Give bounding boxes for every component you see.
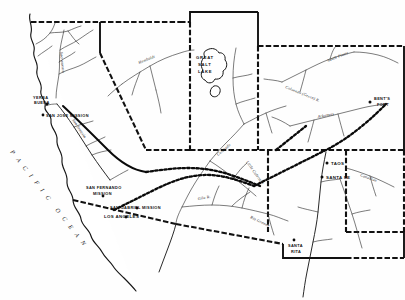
label-santa-rita-line2: RITA [291, 249, 301, 254]
label-great-salt-lake-line1: GREAT [196, 55, 214, 60]
river-colorado-green [233, 48, 244, 124]
label-river-gila: Gila R. [197, 194, 211, 201]
river-north-interior [50, 26, 81, 33]
label-san-gabriel-mission: SAN GABRIEL MISSION [110, 205, 161, 210]
label-yerba-buena-line2: BUENA [34, 100, 50, 105]
label-river-humboldt: Humboldt [137, 53, 157, 65]
river-pecos-branch [352, 210, 370, 214]
label-bents-fort-line2: FORT [377, 102, 389, 107]
label-santa-rita-line1: SANTA [288, 243, 303, 248]
map-canvas: P A C I F I C O C E A N GREAT SALT LAKE … [0, 0, 405, 300]
river-arkansas-branch-a [308, 120, 314, 142]
trail-santa-fe-north [276, 126, 306, 150]
landmass-outline [30, 14, 136, 291]
label-pacific: P A C I F I C [9, 148, 54, 203]
label-bents-fort-line1: BENT'S [374, 96, 390, 101]
river-south-platte-branch-b [264, 79, 282, 82]
river-humboldt-branch-b [132, 72, 140, 95]
river-gila-branch-a [212, 186, 219, 205]
river-gila [182, 205, 288, 221]
label-river-south-platte: South Platte [327, 50, 349, 63]
marker-santa-rita [293, 239, 296, 242]
river-humboldt [122, 50, 194, 84]
marker-taos [326, 162, 329, 165]
river-grand-branch [266, 113, 272, 133]
coastline-pacific [30, 14, 136, 291]
label-river-colorado-green: Colorado (Green) R. [285, 84, 321, 103]
marker-santa-fe [321, 176, 324, 179]
river-south-platte-branch-a [300, 70, 306, 92]
label-taos: TAOS [331, 161, 344, 166]
river-green-branch-b [236, 98, 255, 104]
label-river-sacramento: Sacramento [59, 52, 66, 74]
river-gila-branch-b [242, 188, 249, 208]
label-san-fernando-mission-line1: SAN FERNANDO [86, 185, 122, 190]
label-santa-fe: SANTA FE [326, 175, 350, 180]
lake-utah-lake [210, 86, 220, 97]
river-colorado-mouth [159, 224, 176, 272]
label-river-canadian: Canadian [360, 172, 378, 183]
boundary-panel-top-north [190, 12, 258, 22]
label-san-fernando-mission-line2: MISSION [93, 191, 112, 196]
river-platte-east [354, 52, 398, 63]
river-north-interior2 [68, 31, 79, 44]
label-los-angeles: LOS ANGELES [104, 214, 139, 219]
river-sacramento-branch-a [60, 30, 93, 50]
river-pecos [340, 179, 362, 248]
river-nevada-south [156, 90, 161, 113]
river-arkansas-head [272, 117, 290, 126]
label-great-salt-lake-line2: SALT [198, 62, 211, 67]
marker-san-jose-mission [42, 114, 45, 117]
river-colorado-lower [176, 161, 210, 224]
label-san-jose-mission: SAN JOSE MISSION [46, 113, 89, 118]
boundary-california-diagonal [100, 53, 146, 150]
historical-map: P A C I F I C O C E A N GREAT SALT LAKE … [0, 0, 405, 300]
river-rio-grande [303, 152, 326, 297]
river-kern [110, 170, 128, 180]
river-green-branch-a [233, 74, 252, 78]
river-arkansas-branch-b [338, 114, 344, 136]
river-little-colorado-branch [234, 163, 247, 178]
river-rio-grande-branch-b [298, 207, 318, 212]
river-salt [232, 192, 250, 206]
river-rio-grande-branch-c [313, 239, 332, 242]
river-grand [244, 106, 286, 124]
label-river-arkansas: Arkansas [316, 111, 334, 119]
marker-bents-fort [369, 101, 372, 104]
label-great-salt-lake-line3: LAKE [198, 69, 212, 74]
river-humboldt-branch-a [150, 66, 156, 90]
